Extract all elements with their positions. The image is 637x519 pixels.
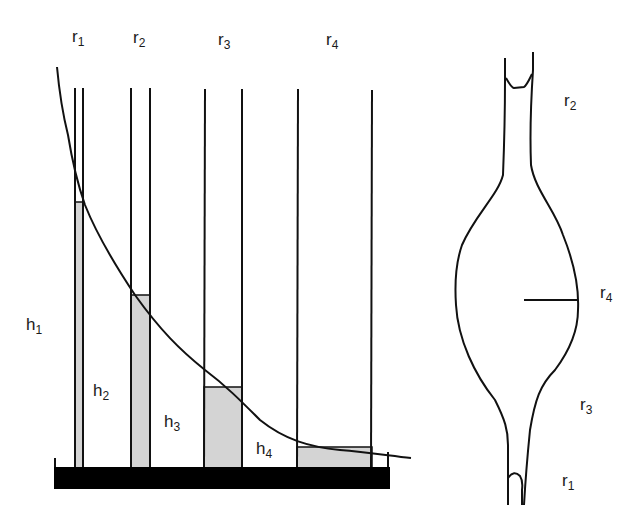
bottom-meniscus: [508, 473, 522, 505]
label-sub: 3: [173, 420, 180, 434]
top-meniscus: [506, 74, 532, 88]
liquid-trough: [54, 467, 390, 489]
liquid-column-r1: [75, 202, 83, 468]
label-sub: 3: [586, 403, 593, 417]
vessel-left-outline: [456, 58, 508, 505]
label-h4: h4: [256, 440, 272, 460]
label-h3: h3: [164, 413, 180, 433]
liquid-column-r2: [131, 295, 150, 468]
tube-array: [55, 67, 411, 468]
liquid-column-r3: [204, 387, 242, 468]
label-sub: 1: [568, 479, 575, 493]
label-sub: 4: [606, 291, 613, 305]
label-r2-left: r2: [133, 29, 145, 49]
label-sub: 2: [139, 36, 146, 50]
label-sub: 2: [102, 389, 109, 403]
label-r1-left: r1: [72, 28, 84, 48]
label-r4-left: r4: [326, 31, 338, 51]
tube-r4-left-wall: [297, 89, 298, 468]
tube-r3-left-wall: [204, 89, 205, 468]
label-sub: 4: [265, 447, 272, 461]
vessel-right-outline: [524, 52, 578, 505]
capillary-diagram: [0, 0, 637, 519]
label-r2-right: r2: [564, 92, 576, 112]
bulb-vessel: [456, 52, 579, 505]
label-r4-right: r4: [600, 284, 612, 304]
label-r1-right: r1: [562, 472, 574, 492]
label-sub: 4: [332, 38, 339, 52]
label-r3-left: r3: [218, 31, 230, 51]
label-r3-right: r3: [580, 396, 592, 416]
tube-r4-right-wall: [371, 90, 372, 468]
label-sub: 1: [78, 35, 85, 49]
label-sub: 3: [224, 38, 231, 52]
label-sub: 2: [570, 99, 577, 113]
label-h2: h2: [93, 382, 109, 402]
label-sub: 1: [35, 323, 42, 337]
label-h1: h1: [26, 316, 42, 336]
